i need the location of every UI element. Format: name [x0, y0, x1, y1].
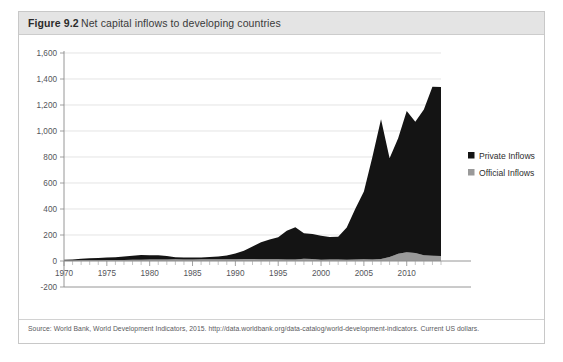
y-axis-tick-label: 1,200 — [37, 101, 58, 110]
x-axis-tick-label: 2000 — [312, 269, 331, 278]
x-axis-tick-label: 2005 — [355, 269, 374, 278]
source-note: Source: World Bank, World Development In… — [28, 325, 479, 332]
figure-header-band: Figure 9.2 Net capital inflows to develo… — [19, 12, 544, 35]
y-axis-tick-label: 1,600 — [37, 49, 58, 58]
y-axis-tick-label: 400 — [43, 205, 57, 214]
x-axis-tick-label: 1985 — [183, 269, 202, 278]
y-axis-tick-label: 0 — [52, 257, 57, 266]
y-axis-tick-label: 600 — [43, 179, 57, 188]
x-axis-tick-label: 1995 — [269, 269, 288, 278]
x-axis-tick-label: 1990 — [226, 269, 245, 278]
y-axis-tick-label: 1,400 — [37, 75, 58, 84]
chart-legend: Private InflowsOfficial Inflows — [468, 151, 535, 178]
figure-number-label: Figure 9.2 — [28, 17, 79, 29]
y-axis-tick-label: 1,000 — [37, 127, 58, 136]
y-axis-tick-label: 200 — [43, 231, 57, 240]
legend-label-official: Official Inflows — [479, 168, 534, 178]
x-axis-ticks: 197019751980198519901995200020052010 — [55, 261, 441, 278]
y-axis-tick-label: -200 — [41, 283, 58, 292]
legend-swatch-private — [468, 152, 475, 159]
legend-swatch-official — [468, 169, 475, 176]
area-chart: -20002004006008001,0001,2001,4001,600 19… — [19, 35, 544, 321]
area-private-inflows — [64, 87, 441, 261]
x-axis-tick-label: 2010 — [398, 269, 417, 278]
x-axis-tick-label: 1980 — [141, 269, 160, 278]
source-bar: Source: World Bank, World Development In… — [19, 319, 544, 343]
y-axis-tick-label: 800 — [43, 153, 57, 162]
legend-label-private: Private Inflows — [479, 151, 535, 161]
x-axis-tick-label: 1970 — [55, 269, 74, 278]
figure-title: Net capital inflows to developing countr… — [81, 17, 281, 29]
chart-plot-area: -20002004006008001,0001,2001,4001,600 19… — [19, 35, 544, 321]
figure-container: Figure 9.2 Net capital inflows to develo… — [18, 11, 545, 344]
y-axis-ticks: -20002004006008001,0001,2001,4001,600 — [37, 49, 65, 292]
x-axis-tick-label: 1975 — [98, 269, 117, 278]
